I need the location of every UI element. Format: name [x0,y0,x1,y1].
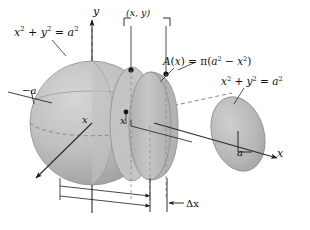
measure-bar-lower [60,196,150,206]
leader-sphere-equation [52,40,66,56]
delta-x-label: Δx [186,199,199,209]
slab-disk [129,72,178,180]
x-label-sphere: x [82,115,88,125]
x-axis-label: x [277,148,283,159]
sphere-equation-label: x2 + y2 = a2 [14,27,78,38]
area-equation-label: A(x) = π(a2 − x2) [163,56,251,67]
radius-label: a [237,148,243,158]
measure-bar-upper [60,186,150,196]
point-xy-label: (x, y) [126,8,150,18]
y-axis-label: y [93,6,99,17]
disk-equation-label: x2 + y2 = a2 [221,76,283,87]
figure-canvas: x2 + y2 = a2 A(x) = π(a2 − x2) x2 + y2 =… [0,0,310,230]
x-label-slab: x [120,116,126,126]
neg-radius-label: −a [22,86,36,96]
